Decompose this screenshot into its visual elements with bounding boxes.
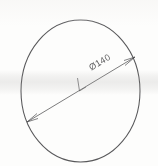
- drawing-svg: [0, 0, 158, 166]
- outer-circle: [21, 20, 140, 162]
- arrowhead-lower-left: [27, 114, 38, 123]
- diameter-dimension-line: [27, 57, 135, 122]
- engineering-sketch-canvas: Ø140: [0, 0, 158, 166]
- arrowhead-upper-right: [124, 57, 135, 66]
